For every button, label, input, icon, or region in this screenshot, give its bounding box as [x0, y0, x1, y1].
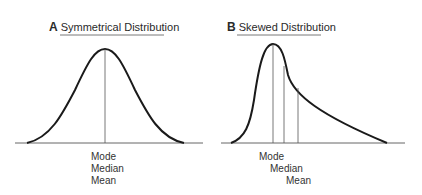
label-a-mean: Mean — [91, 175, 116, 187]
panel-letter-b: B — [227, 20, 236, 34]
label-a-mode: Mode — [91, 151, 116, 163]
label-b-mean: Mean — [286, 175, 311, 187]
panel-title-a: Symmetrical Distribution — [61, 21, 180, 33]
title-a: ASymmetrical Distribution — [49, 20, 179, 34]
title-b: BSkewed Distribution — [227, 20, 336, 34]
panel-title-b: Skewed Distribution — [239, 21, 336, 33]
label-b-mode: Mode — [259, 151, 284, 163]
panel-letter-a: A — [49, 20, 58, 34]
label-b-median: Median — [270, 163, 303, 175]
label-a-median: Median — [91, 163, 124, 175]
skewed-curve — [231, 44, 387, 143]
symmetric-curve — [27, 49, 184, 143]
